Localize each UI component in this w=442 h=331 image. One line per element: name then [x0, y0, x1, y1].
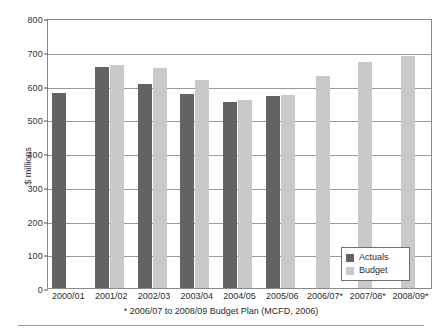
y-tick-label: 600 [27, 83, 43, 93]
x-tick-label: 2003/04 [180, 291, 213, 301]
legend-swatch-budget [346, 267, 354, 275]
x-tick-label: 2004/05 [223, 291, 256, 301]
bar-budget [238, 100, 252, 288]
y-tick-label: 200 [27, 218, 43, 228]
x-tick-label: 2000/01 [52, 291, 85, 301]
legend-label-actuals: Actuals [359, 253, 389, 262]
legend-item-actuals: Actuals [346, 251, 405, 264]
bar-actuals [95, 67, 109, 288]
chart-footnote: * 2006/07 to 2008/09 Budget Plan (MCFD, … [0, 306, 442, 316]
bar-group [219, 20, 262, 288]
bar-group [176, 20, 219, 288]
x-tick-label: 2005/06 [266, 291, 299, 301]
legend-label-budget: Budget [359, 266, 388, 275]
y-tick-label: 400 [27, 150, 43, 160]
bar-budget [110, 65, 124, 288]
bar-actuals [138, 84, 152, 288]
y-tick-label: 800 [27, 15, 43, 25]
x-tick-label: 2007/08* [350, 291, 386, 301]
legend-item-budget: Budget [346, 264, 405, 277]
x-tick-label: 2006/07* [307, 291, 343, 301]
bar-budget [153, 68, 167, 288]
bar-budget [316, 76, 330, 288]
chart-legend: Actuals Budget [341, 247, 410, 281]
bar-group [134, 20, 177, 288]
x-tick-label: 2002/03 [138, 291, 171, 301]
legend-swatch-actuals [346, 254, 354, 262]
y-tick-label: 100 [27, 251, 43, 261]
bar-actuals [180, 94, 194, 288]
bar-group [91, 20, 134, 288]
y-tick-label: 700 [27, 49, 43, 59]
y-tick-label: 500 [27, 116, 43, 126]
bar-group [48, 20, 91, 288]
bar-actuals [266, 96, 280, 288]
bar-chart-figure: $ millions 0100200300400500600700800 200… [0, 0, 442, 331]
bar-actuals [223, 102, 237, 288]
x-tick-label: 2008/09* [393, 291, 429, 301]
bar-group [262, 20, 305, 288]
x-axis-labels: 2000/012001/022002/032003/042004/052005/… [47, 291, 432, 305]
bar-budget [281, 95, 295, 288]
bottom-divider [18, 325, 424, 326]
y-tick-label: 0 [38, 285, 43, 295]
bar-budget [195, 80, 209, 288]
x-tick-label: 2001/02 [95, 291, 128, 301]
y-tick-label: 300 [27, 184, 43, 194]
bar-actuals [52, 93, 66, 288]
